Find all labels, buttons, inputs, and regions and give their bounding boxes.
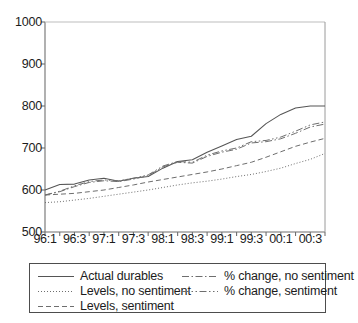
- legend-label: Levels, sentiment: [80, 300, 174, 313]
- x-axis-tick-labels: 96:196:397:197:398:198:399:199:300:100:3: [0, 233, 358, 253]
- legend-line-sample: [38, 271, 74, 282]
- x-tick-label: 99:1: [210, 233, 233, 246]
- chart-legend: Actual durablesLevels, no sentimentLevel…: [29, 263, 326, 313]
- legend-label: % change, sentiment: [224, 285, 337, 298]
- legend-label: Levels, no sentiment: [80, 285, 191, 298]
- x-tick-label: 97:3: [122, 233, 145, 246]
- legend-item: % change, no sentiment: [182, 269, 354, 284]
- legend-item: Levels, no sentiment: [38, 284, 191, 299]
- x-tick-label: 96:3: [63, 233, 86, 246]
- chart-plot-region: 5006007008009001000 96:196:397:197:398:1…: [0, 0, 358, 255]
- x-tick-label: 98:3: [181, 233, 204, 246]
- legend-label: Actual durables: [80, 270, 163, 283]
- series-line-3: [45, 138, 325, 195]
- series-line-1: [45, 106, 325, 190]
- chart-axes: [45, 22, 325, 232]
- y-tick-label: 800: [8, 100, 42, 112]
- x-tick-label: 00:3: [299, 233, 322, 246]
- y-tick-label: 600: [8, 184, 42, 196]
- chart-figure: 5006007008009001000 96:196:397:197:398:1…: [0, 0, 358, 323]
- legend-item: Actual durables: [38, 269, 163, 284]
- y-tick-label: 700: [8, 142, 42, 154]
- x-tick-label: 99:3: [240, 233, 263, 246]
- y-tick-label: 1000: [8, 16, 42, 28]
- chart-canvas: [0, 0, 358, 255]
- legend-item: Levels, sentiment: [38, 299, 174, 314]
- x-tick-label: 97:1: [92, 233, 115, 246]
- legend-line-sample: [38, 286, 74, 297]
- x-tick-label: 96:1: [33, 233, 56, 246]
- x-tick-label: 98:1: [151, 233, 174, 246]
- chart-series-group: [45, 106, 325, 203]
- legend-line-sample: [38, 301, 74, 312]
- legend-line-sample: [182, 286, 218, 297]
- legend-item: % change, sentiment: [182, 284, 337, 299]
- y-axis-tick-labels: 5006007008009001000: [4, 0, 42, 250]
- legend-entries: Actual durablesLevels, no sentimentLevel…: [30, 264, 325, 312]
- legend-label: % change, no sentiment: [224, 270, 354, 283]
- x-tick-label: 00:1: [269, 233, 292, 246]
- y-tick-label: 900: [8, 58, 42, 70]
- legend-line-sample: [182, 271, 218, 282]
